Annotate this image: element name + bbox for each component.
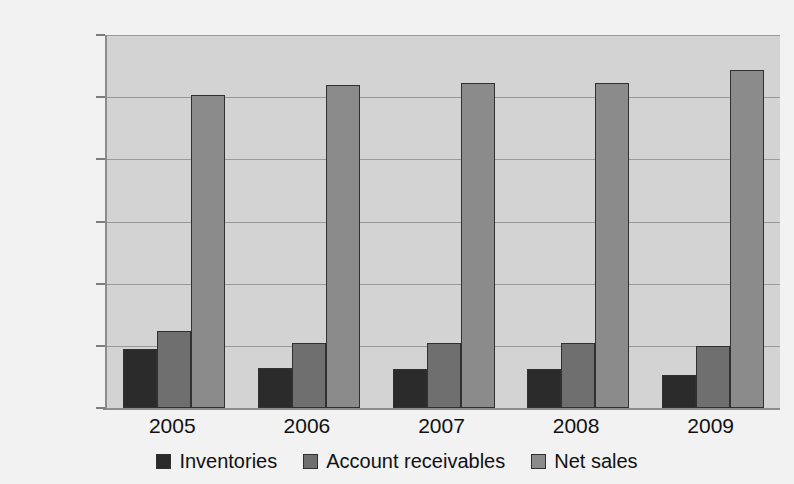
bar xyxy=(292,343,326,408)
legend-label: Net sales xyxy=(554,450,637,473)
x-axis-tick-label: 2008 xyxy=(526,414,626,438)
bar-chart: 020,00040,00060,00080,000100,000120,000 … xyxy=(0,0,794,484)
y-axis-tick-mark xyxy=(96,283,105,285)
gridline xyxy=(107,35,780,36)
legend-swatch-icon xyxy=(531,454,546,469)
legend-label: Account receivables xyxy=(326,450,505,473)
y-axis-tick-mark xyxy=(96,34,105,36)
bar xyxy=(258,368,292,408)
legend-item: Account receivables xyxy=(303,450,505,473)
y-axis-tick-mark xyxy=(96,158,105,160)
bar xyxy=(123,349,157,408)
bar xyxy=(157,331,191,408)
legend-label: Inventories xyxy=(179,450,277,473)
y-axis-tick-mark xyxy=(96,407,105,409)
bar xyxy=(191,95,225,408)
chart-title xyxy=(0,0,794,4)
plot-area xyxy=(105,35,780,408)
bar xyxy=(730,70,764,408)
bar xyxy=(326,85,360,408)
x-axis-tick-label: 2006 xyxy=(257,414,357,438)
legend-swatch-icon xyxy=(156,454,171,469)
x-axis-tick-label: 2005 xyxy=(122,414,222,438)
chart-legend: InventoriesAccount receivablesNet sales xyxy=(0,450,794,473)
y-axis-tick-mark xyxy=(96,345,105,347)
bar xyxy=(427,343,461,408)
bar xyxy=(461,83,495,408)
bar xyxy=(561,343,595,408)
bar xyxy=(662,375,696,408)
bar xyxy=(527,369,561,408)
x-axis-line xyxy=(103,408,780,410)
bar xyxy=(595,83,629,408)
bar xyxy=(393,369,427,408)
y-axis-tick-mark xyxy=(96,221,105,223)
x-axis-tick-label: 2009 xyxy=(661,414,761,438)
legend-swatch-icon xyxy=(303,454,318,469)
legend-item: Net sales xyxy=(531,450,637,473)
x-axis-tick-label: 2007 xyxy=(392,414,492,438)
legend-item: Inventories xyxy=(156,450,277,473)
y-axis-tick-mark xyxy=(96,96,105,98)
bar xyxy=(696,346,730,408)
